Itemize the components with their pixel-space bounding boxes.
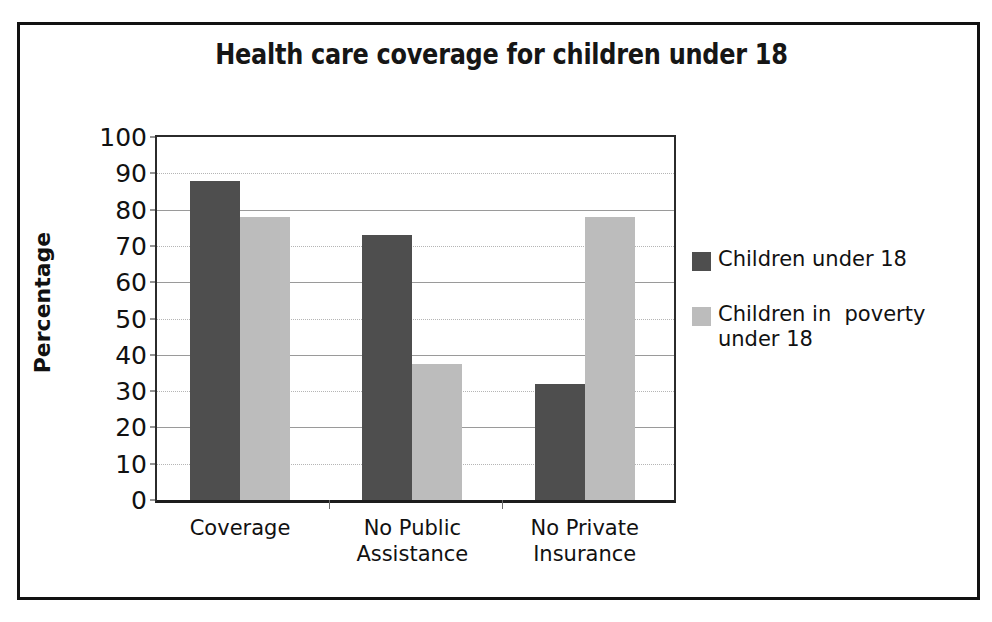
y-tick-mark xyxy=(150,245,157,246)
bar-no-private-insurance-series-0 xyxy=(535,384,585,500)
x-category-label: No PrivateInsurance xyxy=(490,516,680,567)
x-category-label-line: Assistance xyxy=(317,542,507,568)
y-tick-mark xyxy=(150,427,157,428)
gridline xyxy=(157,173,674,174)
y-tick-label: 90 xyxy=(27,159,147,188)
plot-area: 1009080706050403020100CoverageNo PublicA… xyxy=(155,135,676,503)
y-tick-label: 80 xyxy=(27,195,147,224)
x-category-label-line: Coverage xyxy=(145,516,335,542)
y-tick-mark xyxy=(150,500,157,501)
y-tick-mark xyxy=(150,137,157,138)
y-tick-label: 40 xyxy=(27,340,147,369)
x-category-label-line: No Private xyxy=(490,516,680,542)
bar-coverage-series-1 xyxy=(240,217,290,500)
y-tick-mark xyxy=(150,463,157,464)
y-tick-mark xyxy=(150,209,157,210)
y-tick-label: 50 xyxy=(27,304,147,333)
bar-coverage-series-0 xyxy=(190,181,240,500)
light-gray-swatch xyxy=(692,307,711,326)
y-tick-label: 20 xyxy=(27,413,147,442)
x-tick-mark xyxy=(329,500,330,509)
x-category-label: Coverage xyxy=(145,516,335,542)
x-category-label: No PublicAssistance xyxy=(317,516,507,567)
dark-gray-swatch xyxy=(692,252,711,271)
chart-figure: Health care coverage for children under … xyxy=(0,0,992,622)
y-tick-mark xyxy=(150,282,157,283)
chart-legend: Children under 18Children in poverty und… xyxy=(692,247,972,381)
bar-no-public-assistance-series-1 xyxy=(412,364,462,500)
x-tick-mark xyxy=(502,500,503,509)
legend-entry: Children under 18 xyxy=(692,247,972,272)
y-tick-label: 100 xyxy=(27,123,147,152)
x-category-label-line: Insurance xyxy=(490,542,680,568)
bar-no-public-assistance-series-0 xyxy=(362,235,412,500)
y-tick-mark xyxy=(150,354,157,355)
y-tick-mark xyxy=(150,391,157,392)
y-tick-label: 60 xyxy=(27,268,147,297)
x-category-label-line: No Public xyxy=(317,516,507,542)
y-tick-label: 0 xyxy=(27,486,147,515)
bar-no-private-insurance-series-1 xyxy=(585,217,635,500)
chart-frame: Health care coverage for children under … xyxy=(17,22,980,600)
y-tick-label: 70 xyxy=(27,231,147,260)
y-tick-mark xyxy=(150,173,157,174)
legend-label: Children under 18 xyxy=(718,247,907,272)
y-tick-label: 30 xyxy=(27,377,147,406)
y-tick-label: 10 xyxy=(27,449,147,478)
y-tick-mark xyxy=(150,318,157,319)
chart-title: Health care coverage for children under … xyxy=(59,37,945,71)
legend-label: Children in poverty under 18 xyxy=(718,302,925,352)
legend-entry: Children in poverty under 18 xyxy=(692,302,972,352)
